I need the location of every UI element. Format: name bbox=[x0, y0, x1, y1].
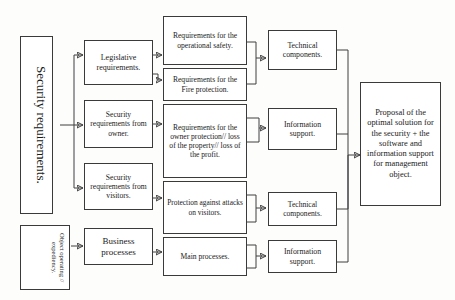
node-protection-against-attacks[interactable]: Protection against attacks on visitors. bbox=[163, 181, 247, 234]
node-information-support-top[interactable]: Information support. bbox=[268, 108, 337, 150]
node-label: Protection against attacks on visitors. bbox=[167, 198, 243, 216]
node-label: Business processes bbox=[88, 236, 149, 258]
node-object-operating[interactable]: Object operating // expediency. bbox=[20, 225, 70, 290]
node-business-processes[interactable]: Business processes bbox=[84, 228, 153, 265]
node-main-processes[interactable]: Main processes. bbox=[163, 237, 247, 276]
node-requirements-operational-safety[interactable]: Requirements for the operational safety. bbox=[163, 16, 247, 65]
node-security-requirements[interactable]: Security requirements. bbox=[20, 36, 53, 214]
node-security-requirements-visitors[interactable]: Security requirements from visitors. bbox=[84, 163, 153, 210]
node-label: Information support. bbox=[272, 120, 333, 139]
node-label: Object operating // expediency. bbox=[24, 227, 66, 288]
node-label: Technical components. bbox=[272, 41, 333, 60]
node-requirements-fire-protection[interactable]: Requirements for the Fire protection. bbox=[163, 68, 247, 101]
node-label: Security requirements from visitors. bbox=[88, 173, 149, 201]
node-label: Main processes. bbox=[167, 252, 243, 261]
node-label: Technical components. bbox=[272, 200, 333, 219]
node-label: Security requirements from owner. bbox=[88, 110, 149, 138]
node-information-support-bottom[interactable]: Information support. bbox=[268, 240, 337, 273]
node-label: Security requirements. bbox=[24, 66, 49, 184]
node-label: Requirements for the operational safety. bbox=[167, 31, 243, 50]
node-label: Requirements for the Fire protection. bbox=[167, 75, 243, 94]
node-label: Requirements for the owner protection// … bbox=[167, 123, 243, 160]
node-technical-components-bottom[interactable]: Technical components. bbox=[268, 192, 337, 226]
node-requirements-owner-protection[interactable]: Requirements for the owner protection// … bbox=[163, 104, 247, 178]
node-technical-components-top[interactable]: Technical components. bbox=[268, 30, 337, 70]
node-legislative-requirements[interactable]: Legislative requirements. bbox=[84, 40, 153, 85]
flowchart-diagram: Security requirements. Object operating … bbox=[0, 0, 455, 300]
node-proposal[interactable]: Proposal of the optimal solution for the… bbox=[360, 82, 441, 206]
node-label: Legislative requirements. bbox=[88, 53, 149, 73]
node-label: Proposal of the optimal solution for the… bbox=[364, 108, 437, 180]
node-security-requirements-owner[interactable]: Security requirements from owner. bbox=[84, 100, 153, 148]
node-label: Information support. bbox=[272, 247, 333, 266]
